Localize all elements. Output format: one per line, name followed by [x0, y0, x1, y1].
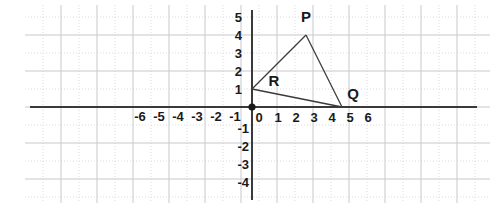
- y-tick-label-neg1: -1: [237, 121, 249, 136]
- y-tick-label-5: 5: [235, 10, 242, 25]
- x-tick-label-neg4: -4: [172, 109, 184, 124]
- x-tick-label-neg5: -5: [153, 109, 165, 124]
- x-tick-label-3: 3: [310, 110, 317, 125]
- y-tick-label-neg3: -3: [237, 157, 249, 172]
- y-tick-label-3: 3: [235, 46, 242, 61]
- x-tick-label-neg6: -6: [134, 109, 146, 124]
- x-tick-label-zero: 0: [255, 110, 262, 125]
- y-tick-label-4: 4: [235, 28, 243, 43]
- coordinate-plane-figure: P Q R -6 -5 -4 -3 -2 -1 0 1 2 3 4 5 6 5 …: [0, 0, 501, 215]
- coordinate-plot: P Q R -6 -5 -4 -3 -2 -1 0 1 2 3 4 5 6 5 …: [0, 0, 501, 215]
- vertex-label-p: P: [301, 8, 311, 25]
- y-tick-label-1: 1: [235, 82, 242, 97]
- x-tick-label-neg2: -2: [210, 109, 222, 124]
- y-tick-label-2: 2: [235, 64, 242, 79]
- vertex-label-r: R: [269, 72, 280, 89]
- y-tick-label-neg2: -2: [237, 139, 249, 154]
- x-tick-label-neg3: -3: [191, 109, 203, 124]
- vertex-label-q: Q: [347, 85, 359, 102]
- x-tick-label-5: 5: [346, 110, 353, 125]
- x-tick-label-1: 1: [274, 110, 281, 125]
- x-tick-label-6: 6: [364, 110, 371, 125]
- x-tick-label-2: 2: [292, 110, 299, 125]
- y-tick-label-neg4: -4: [237, 175, 249, 190]
- x-tick-label-4: 4: [328, 110, 336, 125]
